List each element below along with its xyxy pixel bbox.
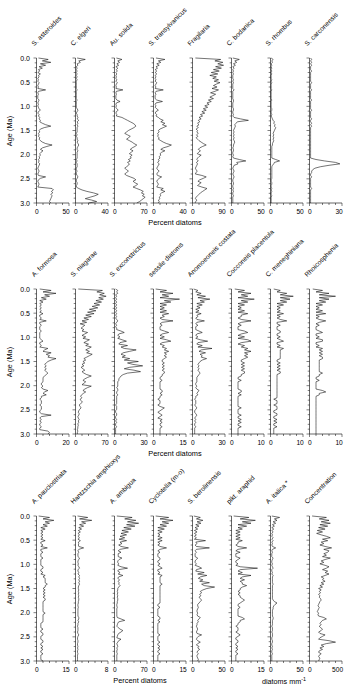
species-column-a-italica: A. italica *050 — [268, 464, 305, 681]
species-label: A. ambigua — [108, 476, 137, 505]
y-tick-label: 2.0 — [12, 609, 30, 616]
x-max-label: 15 — [179, 666, 186, 673]
x-min-label: 0 — [35, 439, 39, 446]
y-tick-label: 2.0 — [12, 151, 30, 158]
species-abundance-curve — [39, 516, 54, 661]
x-min-label: 0 — [74, 666, 78, 673]
species-abundance-curve — [234, 516, 258, 661]
species-abundance-curve — [312, 516, 335, 661]
y-tick-label: 2.5 — [12, 633, 30, 640]
curve-plot — [73, 58, 110, 217]
species-label: S. rhombus — [264, 18, 293, 47]
species-label: Cyclotella (m-o) — [147, 467, 185, 505]
curve-plot — [73, 289, 110, 448]
x-max-label: 50 — [296, 666, 303, 673]
y-tick-label: 0.0 — [12, 513, 30, 520]
x-max-label: 50 — [296, 208, 303, 215]
curve-plot — [307, 289, 344, 448]
stratigraphy-panel-1: Age (Ma)0.00.51.01.52.02.53.0S. asteroid… — [0, 6, 350, 228]
y-tick-label: 0.5 — [12, 79, 30, 86]
x-min-label: 0 — [230, 666, 234, 673]
species-abundance-curve — [156, 516, 173, 661]
x-min-label: 0 — [191, 439, 195, 446]
curve-plot — [73, 516, 110, 675]
species-label: S. carconensis — [303, 11, 339, 47]
curve-plot — [151, 58, 188, 217]
species-column-hantzschia-amphioxys: Hantzschia amphioxys08 — [73, 464, 110, 681]
x-max-label: 70 — [101, 439, 108, 446]
species-label: A. formosa — [30, 250, 58, 278]
y-tick-label: 2.5 — [12, 406, 30, 413]
x-min-label: 0 — [35, 208, 39, 215]
x-min-label: 0 — [230, 208, 234, 215]
species-column-s-niagarae: S. niagarae070 — [73, 237, 110, 454]
curve-plot — [112, 58, 149, 217]
x-min-label: 0 — [191, 666, 195, 673]
y-tick-label: 1.5 — [12, 358, 30, 365]
x-max-label: 40 — [101, 208, 108, 215]
species-label: S. asteroides — [30, 14, 63, 47]
x-min-label: 0 — [35, 666, 39, 673]
x-max-label: 500 — [332, 666, 343, 673]
species-column-anomoeoneis-costata: Anomoeoneis costata030 — [190, 237, 227, 454]
curve-plot — [229, 289, 266, 448]
species-label: C. meneghiniana — [264, 237, 305, 278]
species-column-cyclotella-m-o: Cyclotella (m-o)015 — [151, 464, 188, 681]
x-min-label: 0 — [230, 439, 234, 446]
species-abundance-curve — [271, 58, 279, 203]
x-max-label: 8 — [105, 666, 109, 673]
x-max-label: 30 — [218, 439, 225, 446]
species-column-sessile-diatoms: sessile diatoms015 — [151, 237, 188, 454]
species-column-s-berolinensis: S. berolinensis050 — [190, 464, 227, 681]
species-label: S. transylvanicus — [147, 6, 188, 47]
x-max-label: 30 — [140, 439, 147, 446]
curve-plot — [268, 289, 305, 448]
species-column-s-rhombus: S. rhombus050 — [268, 6, 305, 223]
x-min-label: 0 — [269, 439, 273, 446]
curve-plot — [34, 58, 71, 217]
x-min-label: 0 — [308, 666, 312, 673]
curve-plot — [151, 289, 188, 448]
x-min-label: 0 — [74, 208, 78, 215]
species-label: S. berolinensis — [186, 469, 222, 505]
y-tick-label: 1.5 — [12, 127, 30, 134]
x-min-label: 0 — [113, 666, 117, 673]
species-column-c-meneghiniana: C. meneghiniana010 — [268, 237, 305, 454]
species-abundance-curve — [235, 289, 255, 434]
stratigraphy-panel-3: Age (Ma)0.00.51.01.52.02.53.0A. pauciost… — [0, 464, 350, 689]
x-max-label: 50 — [62, 208, 69, 215]
curve-plot — [190, 516, 227, 675]
species-abundance-curve — [155, 58, 171, 203]
curve-plot — [229, 516, 266, 675]
curve-plot — [112, 516, 149, 675]
species-abundance-curve — [117, 516, 139, 661]
species-abundance-curve — [76, 58, 98, 203]
concentration-unit-label: diatoms mm-1 — [262, 676, 306, 686]
y-tick-label: 3.0 — [12, 658, 30, 665]
x-min-label: 0 — [152, 666, 156, 673]
unit-exponent: -1 — [301, 676, 306, 682]
species-label: A. pauciostriata — [30, 467, 68, 505]
x-max-label: 15 — [257, 666, 264, 673]
x-min-label: 0 — [191, 208, 195, 215]
species-abundance-curve — [156, 289, 180, 434]
species-abundance-curve — [40, 289, 56, 434]
species-column-s-carconensis: S. carconensis030 — [307, 6, 344, 223]
x-max-label: 10 — [296, 439, 303, 446]
x-max-label: 50 — [218, 666, 225, 673]
y-tick-label: 0.0 — [12, 286, 30, 293]
x-max-label: 50 — [257, 208, 264, 215]
species-label: plkt. araphid — [225, 474, 256, 505]
species-label: S. niagarae — [69, 249, 98, 278]
y-tick-label: 1.0 — [12, 103, 30, 110]
x-max-label: 10 — [257, 439, 264, 446]
species-label: Concentration — [303, 471, 337, 505]
x-max-label: 15 — [62, 666, 69, 673]
species-label: C. bodanica — [225, 17, 255, 47]
species-abundance-curve — [195, 58, 224, 203]
x-min-label: 0 — [74, 439, 78, 446]
species-abundance-curve — [274, 289, 294, 434]
x-min-label: 0 — [269, 208, 273, 215]
curve-plot — [190, 58, 227, 217]
x-min-label: 0 — [152, 439, 156, 446]
